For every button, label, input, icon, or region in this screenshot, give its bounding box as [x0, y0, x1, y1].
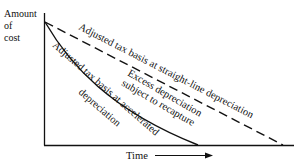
y-axis-label-line-2: of [4, 20, 13, 31]
x-axis-label: Time [126, 150, 148, 161]
depreciation-diagram: Amount of cost Adjusted tax basis at str… [0, 0, 298, 163]
y-axis-label-line-1: Amount [4, 8, 37, 19]
straight-line-depreciation-line [45, 22, 283, 145]
y-axis-label-line-3: cost [4, 32, 20, 43]
time-arrow-head-icon [205, 153, 213, 159]
